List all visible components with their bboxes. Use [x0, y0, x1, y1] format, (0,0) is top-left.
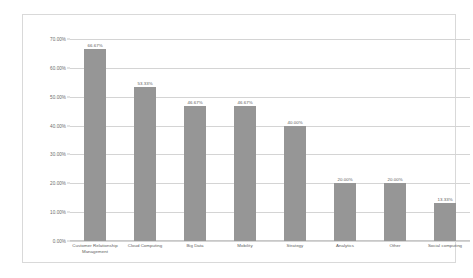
y-axis-tick-label: 70.00% — [50, 37, 66, 42]
bar-value-label: 20.00% — [387, 177, 402, 182]
bar[interactable] — [284, 126, 306, 241]
bar-slot: 20.00% — [320, 39, 370, 241]
y-axis-tick-label: 0.00% — [53, 239, 66, 244]
bar[interactable] — [334, 183, 356, 241]
bar[interactable] — [234, 106, 256, 241]
bar-value-label: 20.00% — [337, 177, 352, 182]
bar[interactable] — [384, 183, 406, 241]
bar-value-label: 46.67% — [187, 100, 202, 105]
bar-slot: 46.67% — [170, 39, 220, 241]
bar-slot: 20.00% — [370, 39, 420, 241]
y-axis-tick-label: 20.00% — [50, 181, 66, 186]
bars-group: 66.67%53.33%46.67%46.67%40.00%20.00%20.0… — [70, 39, 470, 241]
bar-value-label: 53.33% — [137, 81, 152, 86]
bar-slot: 40.00% — [270, 39, 320, 241]
x-axis-category-label: Customer Relationship Management — [70, 243, 120, 255]
bar-chart-figure: 70.00%60.00%50.00%40.00%30.00%20.00%10.0… — [0, 0, 473, 278]
x-axis-category-label: Cloud Computing — [120, 243, 170, 255]
x-axis-category-labels: Customer Relationship ManagementCloud Co… — [70, 243, 470, 255]
bar[interactable] — [434, 203, 456, 241]
bar[interactable] — [84, 49, 106, 241]
bar-value-label: 66.67% — [87, 43, 102, 48]
bar-slot: 53.33% — [120, 39, 170, 241]
bar-value-label: 46.67% — [237, 100, 252, 105]
x-axis-category-label: Other — [370, 243, 420, 255]
bar-slot: 46.67% — [220, 39, 270, 241]
chart-frame: 70.00%60.00%50.00%40.00%30.00%20.00%10.0… — [22, 14, 456, 263]
y-axis-tick-label: 40.00% — [50, 123, 66, 128]
plot-area: 70.00%60.00%50.00%40.00%30.00%20.00%10.0… — [70, 39, 470, 241]
bar-value-label: 40.00% — [287, 120, 302, 125]
bar-slot: 66.67% — [70, 39, 120, 241]
x-axis-category-label: Mobility — [220, 243, 270, 255]
y-axis-tick-label: 30.00% — [50, 152, 66, 157]
bar-value-label: 13.33% — [437, 197, 452, 202]
bar[interactable] — [184, 106, 206, 241]
x-axis-category-label: Strategy — [270, 243, 320, 255]
x-axis-category-label: Analytics — [320, 243, 370, 255]
bar[interactable] — [134, 87, 156, 241]
x-axis-category-label: Social computing — [420, 243, 470, 255]
y-axis-tick-label: 60.00% — [50, 65, 66, 70]
y-axis-tick-label: 50.00% — [50, 94, 66, 99]
y-axis-tick-label: 10.00% — [50, 210, 66, 215]
x-axis-category-label: Big Data — [170, 243, 220, 255]
bar-slot: 13.33% — [420, 39, 470, 241]
gridline — [70, 241, 470, 242]
